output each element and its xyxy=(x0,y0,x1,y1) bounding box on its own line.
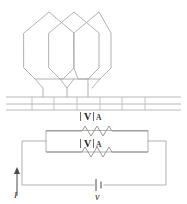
coil-group xyxy=(24,12,111,97)
coil-lead-1 xyxy=(35,79,43,97)
coil-hexagon-right xyxy=(74,12,111,79)
core-band xyxy=(6,97,181,110)
meter-divider-tick xyxy=(93,139,94,148)
voltmeter-label-lower: V xyxy=(84,139,91,149)
outer-loop-path xyxy=(22,141,166,185)
coil-lead-4 xyxy=(92,79,100,88)
voltage-source xyxy=(96,179,101,191)
ammeter-label-lower: A xyxy=(96,141,101,149)
current-label: I xyxy=(14,191,17,200)
outer-circuit-loop xyxy=(22,141,166,185)
meter-divider-tick xyxy=(80,139,81,148)
current-arrow-head xyxy=(14,167,20,174)
coil-lead-2 xyxy=(60,79,74,97)
source-voltage-label: v xyxy=(95,192,99,202)
voltmeter-label-upper: V xyxy=(84,112,91,122)
meter-divider-tick xyxy=(93,112,94,121)
winding-circuit-diagram xyxy=(0,0,187,204)
figure-root: V A V A v I xyxy=(0,0,187,204)
ammeter-label-upper: A xyxy=(96,114,101,122)
meter-divider-tick xyxy=(80,112,81,121)
